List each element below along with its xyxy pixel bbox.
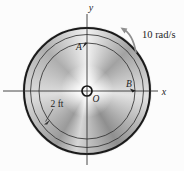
diagram-overlay: y x O A B 2 ft 10 rad/s bbox=[0, 0, 184, 171]
diagram-canvas: y x O A B 2 ft 10 rad/s bbox=[0, 0, 184, 171]
angular-velocity-label: 10 rad/s bbox=[142, 29, 176, 40]
radius-dimension-label: 2 ft bbox=[51, 99, 64, 109]
point-b-label: B bbox=[126, 79, 132, 89]
y-axis-label: y bbox=[88, 2, 94, 13]
point-a-label: A bbox=[75, 42, 82, 52]
origin-label: O bbox=[93, 94, 100, 104]
radius-leader-arrowhead bbox=[44, 120, 50, 125]
radius-leader-line bbox=[46, 109, 53, 122]
x-axis-label: x bbox=[161, 86, 167, 97]
